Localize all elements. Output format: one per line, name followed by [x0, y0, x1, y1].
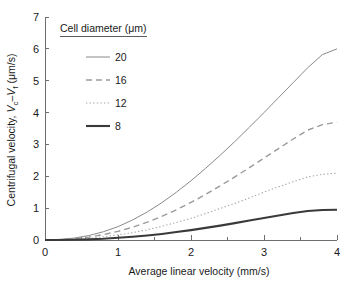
y-tick-label: 7	[33, 11, 39, 23]
legend-label-20: 20	[115, 51, 127, 63]
y-axis-title-units: (μm/s)	[5, 54, 17, 87]
x-tick-label: 1	[115, 246, 121, 258]
legend-title: Cell diameter (μm)	[60, 22, 147, 34]
y-tick-label: 2	[33, 170, 39, 182]
x-tick-labels: 01234	[42, 246, 340, 258]
x-tick-label: 0	[42, 246, 48, 258]
y-tick-label: 0	[33, 234, 39, 246]
legend-items: 2016128	[86, 51, 127, 132]
series-line-20	[45, 49, 337, 240]
y-axis-title: Centrifugal velocity, Vc–Vf (μm/s)	[5, 54, 20, 207]
legend-label-12: 12	[115, 97, 127, 109]
legend-label-16: 16	[115, 74, 127, 86]
x-tick-label: 3	[261, 246, 267, 258]
svg-text:Centrifugal velocity, Vc–Vf (μ: Centrifugal velocity, Vc–Vf (μm/s)	[5, 54, 20, 207]
legend: Cell diameter (μm) 2016128	[60, 22, 147, 132]
y-tick-labels: 01234567	[33, 11, 39, 246]
y-tick-label: 1	[33, 202, 39, 214]
series-group	[45, 49, 337, 240]
chart-svg: 01234567 01234 Average linear velocity (…	[0, 0, 361, 283]
legend-label-8: 8	[115, 120, 121, 132]
y-tick-label: 5	[33, 75, 39, 87]
y-tick-label: 4	[33, 107, 39, 119]
x-axis-title: Average linear velocity (mm/s)	[128, 265, 269, 277]
y-axis-title-prefix: Centrifugal velocity,	[5, 113, 17, 207]
y-tick-group	[45, 17, 49, 240]
y-tick-label: 3	[33, 138, 39, 150]
x-tick-label: 4	[334, 246, 340, 258]
x-tick-label: 2	[188, 246, 194, 258]
y-tick-label: 6	[33, 43, 39, 55]
chart-figure: 01234567 01234 Average linear velocity (…	[0, 0, 361, 283]
